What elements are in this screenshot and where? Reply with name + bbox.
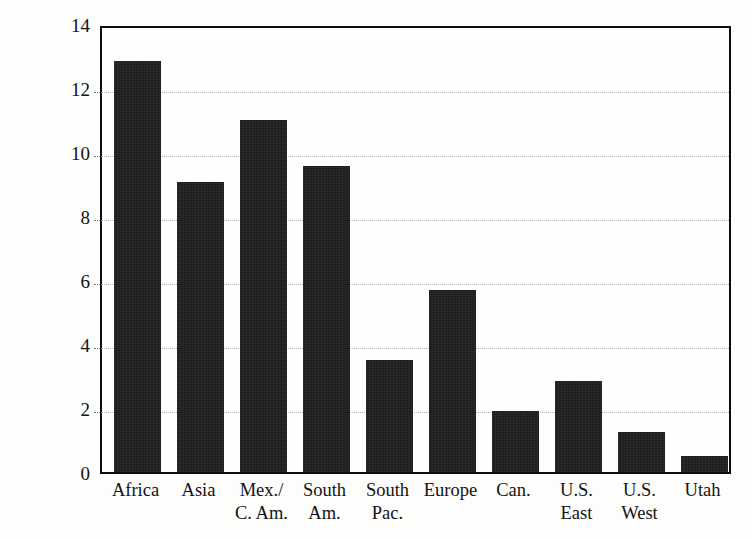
x-tick-label: U.S.West (606, 479, 673, 525)
x-tick-label: U.S.East (543, 479, 610, 525)
x-tick-label: Asia (165, 479, 232, 502)
y-tick-mark (94, 412, 102, 413)
x-tick-label: Europe (417, 479, 484, 502)
bar (681, 456, 728, 472)
x-tick-label: SouthAm. (291, 479, 358, 525)
y-tick-label: 0 (46, 463, 90, 485)
bar (366, 360, 413, 472)
y-tick-label: 2 (46, 399, 90, 421)
x-tick-label: Can. (480, 479, 547, 502)
gridline (102, 92, 729, 93)
x-axis-tick-labels: AfricaAsiaMex./C. Am.SouthAm.SouthPac.Eu… (100, 479, 731, 537)
x-tick-label: Mex./C. Am. (228, 479, 295, 525)
bar (618, 432, 665, 472)
bar (555, 381, 602, 472)
x-tick-label-line1: Can. (496, 480, 530, 500)
y-tick-label: 8 (46, 207, 90, 229)
x-tick-label-line2: East (543, 502, 610, 525)
x-tick-label-line1: Utah (685, 480, 721, 500)
bar (114, 61, 161, 472)
y-tick-label: 12 (46, 79, 90, 101)
x-tick-label-line1: Europe (424, 480, 477, 500)
plot-area (100, 26, 731, 474)
y-tick-label: 10 (46, 143, 90, 165)
bar (429, 290, 476, 472)
x-tick-label-line1: Asia (182, 480, 216, 500)
x-tick-label-line1: U.S. (560, 480, 593, 500)
x-tick-label-line2: West (606, 502, 673, 525)
y-tick-label: 4 (46, 335, 90, 357)
x-tick-label-line1: South (303, 480, 346, 500)
y-tick-mark (94, 348, 102, 349)
plot-inner (102, 28, 729, 472)
y-tick-mark (94, 220, 102, 221)
x-tick-label: Africa (102, 479, 169, 502)
bar (240, 120, 287, 472)
y-tick-label: 14 (46, 15, 90, 37)
bar (492, 411, 539, 472)
bar (303, 166, 350, 472)
x-tick-label: Utah (669, 479, 736, 502)
x-tick-label-line2: Am. (291, 502, 358, 525)
y-tick-mark (94, 92, 102, 93)
x-tick-label-line2: Pac. (354, 502, 421, 525)
x-tick-label-line1: U.S. (623, 480, 656, 500)
x-tick-label: SouthPac. (354, 479, 421, 525)
y-tick-mark (94, 156, 102, 157)
gridline (102, 156, 729, 157)
x-tick-label-line1: Africa (112, 480, 159, 500)
x-tick-label-line1: Mex./ (240, 480, 284, 500)
x-tick-label-line1: South (366, 480, 409, 500)
chart-figure: Annual rate of convert baptisms per 100 … (0, 0, 752, 539)
y-axis-tick-labels: 02468101214 (46, 0, 90, 539)
bar (177, 182, 224, 472)
y-tick-mark (94, 284, 102, 285)
x-tick-label-line2: C. Am. (228, 502, 295, 525)
y-tick-label: 6 (46, 271, 90, 293)
